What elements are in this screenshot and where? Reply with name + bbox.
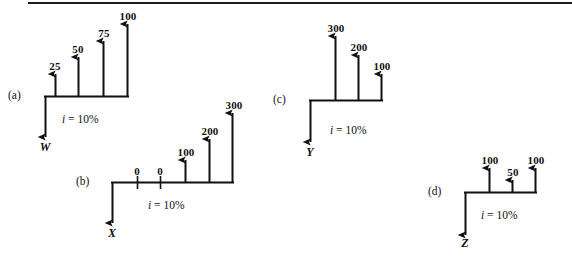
diagram-b-interest-rate-label: i = 10% — [148, 199, 185, 211]
diagram-c-value-label-100: 100 — [373, 60, 390, 72]
diagram-c-value-label-300: 300 — [327, 22, 344, 34]
diagram-d-rate-value: = 10% — [484, 209, 517, 221]
diagram-b-value-label-300: 300 — [225, 99, 242, 111]
diagram-d-interest-rate-label: i = 10% — [481, 209, 518, 221]
diagram-b-value-label-100: 100 — [177, 146, 194, 158]
diagram-b-panel-label: (b) — [76, 175, 89, 187]
diagram-c-panel-label: (c) — [273, 93, 286, 105]
diagram-b-rate-value: = 10% — [151, 199, 184, 211]
diagram-b-zero-label-period-1: 0 — [134, 165, 140, 177]
diagram-c-value-label-200: 200 — [350, 41, 367, 53]
diagram-b-unknown-label-X: X — [108, 226, 116, 241]
diagram-c-unknown-label-Y: Y — [306, 145, 313, 160]
diagram-b-zero-label-period-2: 0 — [157, 165, 163, 177]
diagram-c-rate-value: = 10% — [333, 124, 366, 136]
diagram-a-panel-label: (a) — [8, 89, 21, 101]
cash-flow-figure: (a) 25 50 75 100 i = 10% W (b) 0 0 100 2… — [0, 0, 572, 260]
diagram-d-value-label-50: 50 — [507, 166, 518, 178]
diagram-d-value-label-100-second: 100 — [527, 154, 544, 166]
diagram-c-interest-rate-label: i = 10% — [330, 124, 367, 136]
diagram-d-panel-label: (d) — [428, 185, 441, 197]
diagram-a-value-label-100: 100 — [119, 10, 136, 22]
diagram-a-value-label-25: 25 — [49, 60, 60, 72]
diagram-a-interest-rate-label: i = 10% — [62, 113, 99, 125]
cash-flow-drawing — [0, 0, 572, 260]
diagram-d-group — [465, 168, 536, 235]
diagram-a-rate-value: = 10% — [65, 113, 98, 125]
diagram-b-value-label-200: 200 — [201, 125, 218, 137]
diagram-a-value-label-50: 50 — [72, 43, 83, 55]
diagram-d-unknown-label-Z: Z — [461, 236, 468, 251]
diagram-a-unknown-label-W: W — [40, 140, 51, 155]
diagram-d-value-label-100-first: 100 — [481, 154, 498, 166]
diagram-a-value-label-75: 75 — [98, 27, 109, 39]
